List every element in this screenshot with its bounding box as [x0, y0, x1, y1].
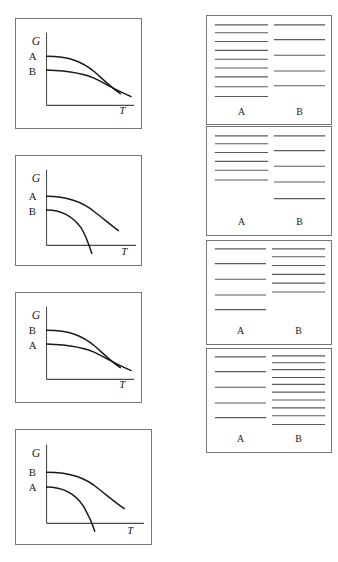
- graph-2-xlabel: T: [121, 245, 128, 257]
- graph-panel-3: G B A T: [15, 292, 142, 403]
- levels-3-column-a: [215, 249, 266, 310]
- graph-3-svg: G B A T: [16, 293, 141, 402]
- graph-3-ylabel: G: [32, 308, 41, 322]
- graph-1-svg: G A B T: [16, 19, 141, 128]
- graph-2-curve-a: [47, 196, 119, 230]
- graph-3-lower-label: A: [29, 339, 37, 351]
- levels-1-column-a: [215, 25, 268, 97]
- graph-panel-1: G A B T: [15, 18, 142, 129]
- graph-4-upper-label: B: [29, 466, 36, 478]
- levels-3-label-b: B: [295, 325, 302, 336]
- graph-3-xlabel: T: [119, 378, 126, 390]
- levels-1-label-a: A: [238, 106, 246, 117]
- levels-panel-4: A B: [206, 348, 332, 453]
- graph-2-lower-label: B: [29, 205, 36, 217]
- graph-2-upper-label: A: [29, 190, 37, 202]
- levels-4-svg: A B: [207, 349, 331, 452]
- graph-2-curve-b: [47, 210, 92, 253]
- levels-1-svg: A B: [207, 16, 331, 124]
- levels-3-svg: A B: [207, 241, 331, 344]
- levels-panel-1: A B: [206, 15, 332, 125]
- levels-2-column-a: [215, 136, 268, 180]
- levels-4-label-b: B: [295, 433, 302, 444]
- levels-4-label-a: A: [237, 433, 245, 444]
- graph-4-lower-label: A: [29, 481, 37, 493]
- levels-2-column-b: [274, 136, 325, 199]
- graph-1-ylabel: G: [32, 34, 41, 48]
- levels-4-column-a: [215, 357, 266, 418]
- graph-4-ylabel: G: [32, 446, 41, 460]
- graph-3-upper-label: B: [29, 324, 36, 336]
- graph-4-curve-b: [47, 472, 125, 508]
- graph-panel-2: G A B T: [15, 155, 142, 266]
- graph-2-svg: G A B T: [16, 156, 141, 265]
- levels-panel-2: A B: [206, 126, 332, 236]
- levels-1-column-b: [274, 25, 325, 86]
- graph-1-xlabel: T: [119, 104, 126, 116]
- levels-3-column-b: [272, 249, 325, 292]
- graph-panel-4: G B A T: [15, 429, 152, 545]
- graph-4-curve-a: [47, 487, 95, 531]
- graph-2-ylabel: G: [32, 171, 41, 185]
- levels-panel-3: A B: [206, 240, 332, 345]
- graph-4-svg: G B A T: [16, 430, 151, 544]
- graph-1-lower-label: B: [29, 65, 36, 77]
- levels-2-svg: A B: [207, 127, 331, 235]
- levels-3-label-a: A: [237, 325, 245, 336]
- graph-1-upper-label: A: [29, 50, 37, 62]
- graph-4-xlabel: T: [127, 524, 134, 536]
- levels-4-column-b: [272, 356, 325, 425]
- levels-1-label-b: B: [296, 106, 303, 117]
- levels-2-label-a: A: [238, 216, 246, 227]
- levels-2-label-b: B: [296, 216, 303, 227]
